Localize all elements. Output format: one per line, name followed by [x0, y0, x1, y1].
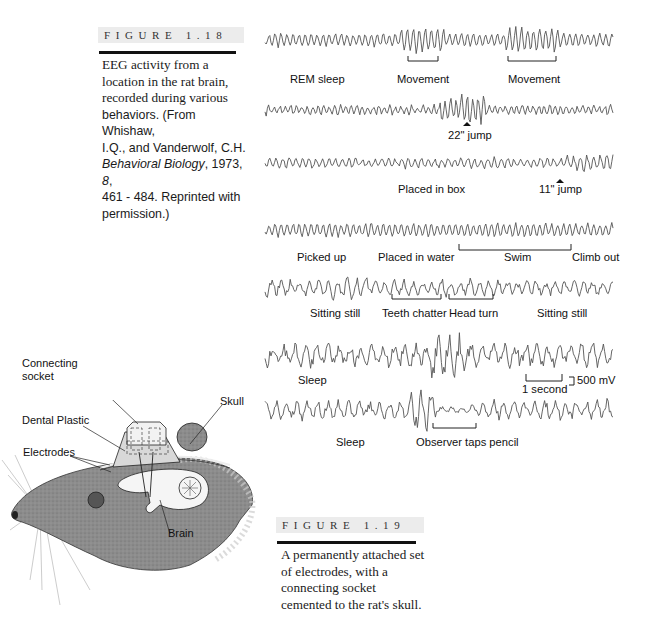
trace-label: Head turn — [449, 307, 498, 319]
event-bracket — [408, 56, 438, 61]
trace-label: 22" jump — [448, 129, 492, 141]
trace-label: Teeth chatter — [382, 307, 447, 319]
label-brain: Brain — [168, 527, 194, 539]
trace-label: Sleep — [298, 374, 327, 386]
label-connecting-socket: Connecting socket — [22, 357, 78, 383]
label-electrodes: Electrodes — [23, 446, 75, 458]
caption-line: connecting socket — [281, 580, 451, 597]
trace-label: Sitting still — [310, 307, 360, 319]
trace-label: Observer taps pencil — [416, 436, 519, 448]
label-dental-plastic: Dental Plastic — [22, 414, 89, 426]
trace-label: Placed in water — [378, 251, 455, 263]
trace-label: Swim — [504, 251, 531, 263]
eeg-brackets — [392, 56, 571, 428]
event-bracket — [459, 244, 571, 250]
scale-voltage-label: 500 mV — [577, 374, 616, 386]
jump-marker-icon — [463, 122, 471, 126]
eeg-trace — [265, 155, 613, 172]
trace-label: Placed in box — [398, 183, 465, 195]
eeg-trace — [265, 333, 613, 378]
rat-electrode-diagram — [0, 400, 270, 619]
trace-label: 11" jump — [539, 183, 582, 195]
eeg-trace — [265, 94, 613, 124]
event-bracket — [508, 56, 556, 61]
trace-label: REM sleep — [290, 73, 345, 85]
caption-line: cemented to the rat's skull. — [281, 597, 451, 614]
figure-1-19-label: FIGURE 1.19 — [282, 519, 405, 531]
trace-label: Sleep — [336, 436, 365, 448]
eeg-trace — [265, 27, 613, 54]
trace-label: Climb out — [572, 251, 619, 263]
eeg-trace — [265, 390, 613, 431]
rat-eye-icon — [88, 492, 104, 508]
trace-label: Movement — [508, 73, 560, 85]
figure-1-19-header: FIGURE 1.19 — [276, 517, 424, 533]
eeg-trace — [265, 277, 613, 300]
figure-1-19-caption: A permanently attached set of electrodes… — [281, 547, 451, 613]
trace-label: Sitting still — [537, 307, 587, 319]
eeg-trace — [265, 223, 613, 238]
trace-label: Picked up — [297, 251, 346, 263]
label-skull: Skull — [220, 395, 244, 407]
dental-plastic-leader — [83, 426, 125, 451]
scale-time-label: 1 second — [522, 383, 567, 395]
caption-line: of electrodes, with a — [281, 564, 451, 581]
skull-bump — [177, 423, 207, 451]
trace-label: Movement — [397, 73, 449, 85]
figure-1-19-rule — [277, 541, 416, 544]
caption-line: A permanently attached set — [281, 547, 451, 564]
event-bracket — [433, 423, 476, 428]
eeg-waveforms — [265, 27, 613, 432]
event-bracket — [449, 294, 493, 299]
